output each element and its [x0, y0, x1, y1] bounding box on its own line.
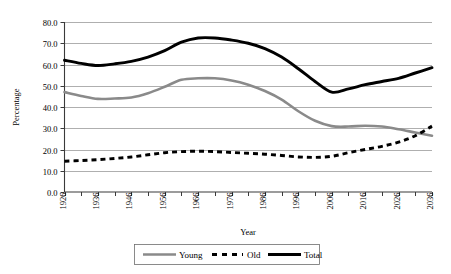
x-axis-tick-labels: 1926193619461956196619761986199620062016… — [58, 193, 435, 210]
chart-legend: Young Old Total — [135, 245, 323, 265]
x-tick-label: 2026 — [392, 193, 402, 210]
legend-label-old: Old — [247, 250, 261, 260]
x-tick-label: 1986 — [258, 193, 268, 210]
y-tick-label: 40.0 — [43, 103, 58, 113]
x-tick-label: 2006 — [325, 193, 335, 210]
series-line-old — [65, 126, 433, 161]
y-tick-label: 20.0 — [43, 146, 58, 156]
data-series-group — [65, 38, 433, 162]
gridlines — [61, 23, 433, 193]
chart-container: 0.010.020.030.040.050.060.070.080.0 1926… — [0, 0, 451, 274]
y-tick-label: 50.0 — [43, 82, 58, 92]
line-chart: 0.010.020.030.040.050.060.070.080.0 1926… — [0, 0, 451, 274]
y-tick-label: 10.0 — [43, 167, 58, 177]
x-tick-label: 2016 — [358, 193, 368, 210]
legend-label-young: Young — [179, 250, 203, 260]
y-tick-label: 30.0 — [43, 124, 58, 134]
x-tick-label: 1936 — [91, 193, 101, 210]
y-tick-label: 0.0 — [47, 188, 58, 198]
x-tick-label: 1966 — [191, 193, 201, 210]
y-axis-title: Percentage — [11, 88, 21, 126]
x-tick-label: 2036 — [425, 193, 435, 210]
x-tick-label: 1946 — [124, 193, 134, 210]
x-axis-ticks — [66, 192, 433, 196]
y-tick-label: 70.0 — [43, 39, 58, 49]
y-tick-label: 60.0 — [43, 61, 58, 71]
x-tick-label: 1996 — [291, 193, 301, 210]
x-tick-label: 1976 — [225, 193, 235, 210]
x-tick-label: 1926 — [58, 193, 68, 210]
y-axis-tick-labels: 0.010.020.030.040.050.060.070.080.0 — [43, 18, 58, 198]
x-tick-label: 1956 — [158, 193, 168, 210]
y-tick-label: 80.0 — [43, 18, 58, 28]
x-axis-title: Year — [240, 227, 256, 237]
legend-label-total: Total — [304, 250, 323, 260]
